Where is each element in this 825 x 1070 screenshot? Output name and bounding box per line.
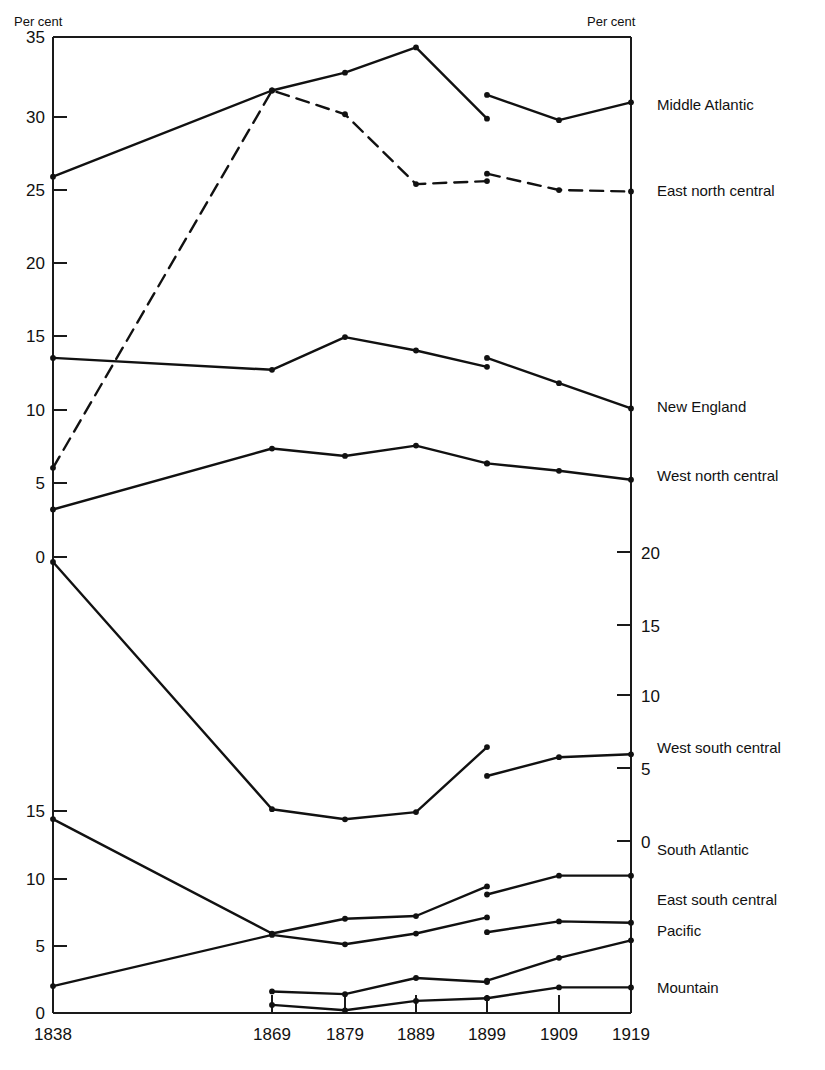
series-labels: Middle AtlanticEast north centralNew Eng… [657,96,781,996]
data-point [484,116,490,122]
data-point [556,955,562,961]
data-point [50,559,56,565]
data-point [484,364,490,370]
series-line-0 [53,47,487,176]
data-point [556,754,562,760]
data-point [484,892,490,898]
data-point [269,932,275,938]
data-point [50,507,56,513]
series-line-5 [53,819,487,933]
data-point [484,914,490,920]
data-point [413,975,419,981]
data-point [628,99,634,105]
right-axis-title: Per cent [587,14,636,29]
data-point [484,461,490,467]
left-axis-title: Per cent [14,14,63,29]
data-point [413,913,419,919]
data-point [556,919,562,925]
data-point [484,92,490,98]
series-label-5: South Atlantic [657,841,749,858]
series-points [50,45,634,1014]
data-point [556,873,562,879]
series-line-0-b [487,95,631,120]
left-tick-label: 5 [36,474,45,493]
x-axis-ticks: 1838186918791889189919091919 [34,995,650,1044]
data-point [484,884,490,890]
right-tick-label: 5 [641,760,650,779]
series-label-7: Pacific [657,922,702,939]
left-tick-label: 0 [36,548,45,567]
right-tick-label: 20 [641,544,660,563]
left-axis-lower-ticks: 151050 [26,802,67,1023]
left-lower-tick-label: 5 [36,937,45,956]
left-tick-label: 30 [26,108,45,127]
data-point [269,88,275,94]
data-point [484,171,490,177]
x-tick-label: 1879 [326,1025,364,1044]
data-point [413,998,419,1004]
data-point [50,174,56,180]
line-chart: 35302520151050 151050 20151050 183818691… [0,0,825,1070]
data-point [342,916,348,922]
series-label-6: East south central [657,891,777,908]
x-tick-label: 1909 [540,1025,578,1044]
right-tick-label: 0 [641,833,650,852]
data-point [484,744,490,750]
data-point [556,985,562,991]
x-tick-label: 1869 [253,1025,291,1044]
data-point [484,929,490,935]
data-point [628,937,634,943]
data-point [628,406,634,412]
data-point [342,816,348,822]
data-point [269,446,275,452]
left-lower-tick-label: 10 [26,870,45,889]
data-point [628,920,634,926]
data-point [556,468,562,474]
data-point [413,931,419,937]
data-point [628,985,634,991]
series-label-8: Mountain [657,979,719,996]
data-point [556,187,562,193]
series-line-7 [272,978,487,994]
data-point [556,380,562,386]
data-point [50,816,56,822]
left-axis-upper-ticks: 35302520151050 [26,28,67,567]
x-tick-label: 1889 [397,1025,435,1044]
data-point [269,1002,275,1008]
left-tick-label: 10 [26,401,45,420]
data-point [484,773,490,779]
data-point [269,806,275,812]
data-point [269,989,275,995]
right-tick-label: 10 [641,687,660,706]
right-axis-ticks: 20151050 [617,544,660,852]
data-point [50,983,56,989]
data-point [413,348,419,354]
data-point [342,991,348,997]
data-point [628,477,634,483]
series-label-1: East north central [657,182,775,199]
series-line-1 [53,91,487,468]
series-line-3 [53,446,487,510]
series-lines [53,47,631,1010]
series-line-4 [53,562,487,819]
left-tick-label: 25 [26,181,45,200]
data-point [413,181,419,187]
series-label-3: West north central [657,467,778,484]
left-tick-label: 35 [26,28,45,47]
left-tick-label: 15 [26,327,45,346]
chart-container: 35302520151050 151050 20151050 183818691… [0,0,825,1070]
right-tick-label: 15 [641,617,660,636]
data-point [484,178,490,184]
data-point [628,873,634,879]
data-point [628,751,634,757]
data-point [342,111,348,117]
data-point [342,941,348,947]
data-point [628,189,634,195]
data-point [342,70,348,76]
series-label-4: West south central [657,739,781,756]
data-point [413,443,419,449]
series-line-6 [53,917,487,986]
data-point [484,978,490,984]
series-label-0: Middle Atlantic [657,96,754,113]
left-lower-tick-label: 15 [26,802,45,821]
